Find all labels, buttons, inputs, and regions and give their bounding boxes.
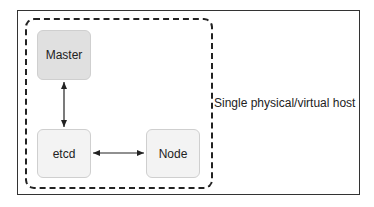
- host-label: Single physical/virtual host: [214, 96, 355, 110]
